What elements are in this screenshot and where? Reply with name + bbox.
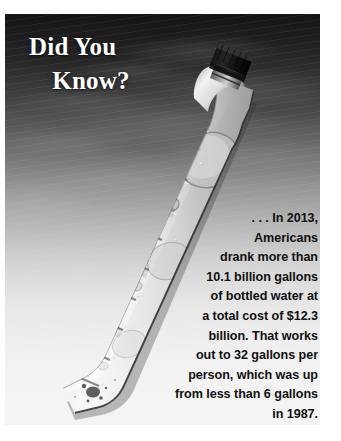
- photo-panel: Did You Know? . . . In 2013, Americans d…: [5, 14, 320, 425]
- fact-line: Americans: [75, 229, 318, 249]
- fact-line: person, which was up: [75, 366, 318, 386]
- page-bottom-margin: [0, 425, 341, 441]
- fact-line: 10.1 billion gallons: [75, 268, 318, 288]
- fact-line: from less than 6 gallons: [75, 385, 318, 405]
- fact-line: a total cost of $12.3: [75, 307, 318, 327]
- fact-line: billion. That works: [75, 327, 318, 347]
- fact-line: in 1987.: [75, 405, 318, 425]
- title-line-1: Did You: [27, 30, 197, 64]
- fact-line: . . . In 2013,: [75, 209, 318, 229]
- fact-line: out to 32 gallons per: [75, 346, 318, 366]
- title-line-2: Know?: [27, 64, 197, 98]
- page-title: Did You Know?: [27, 30, 197, 98]
- infographic-page: Did You Know? . . . In 2013, Americans d…: [0, 0, 341, 441]
- fact-line: of bottled water at: [75, 287, 318, 307]
- fact-paragraph: . . . In 2013, Americans drank more than…: [75, 209, 318, 425]
- fact-line: drank more than: [75, 248, 318, 268]
